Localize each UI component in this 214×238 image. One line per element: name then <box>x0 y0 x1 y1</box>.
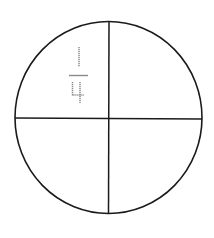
horizontal-divider <box>15 118 202 119</box>
vertical-divider <box>109 22 110 215</box>
fraction-circle-diagram: 1/4 <box>0 0 214 238</box>
